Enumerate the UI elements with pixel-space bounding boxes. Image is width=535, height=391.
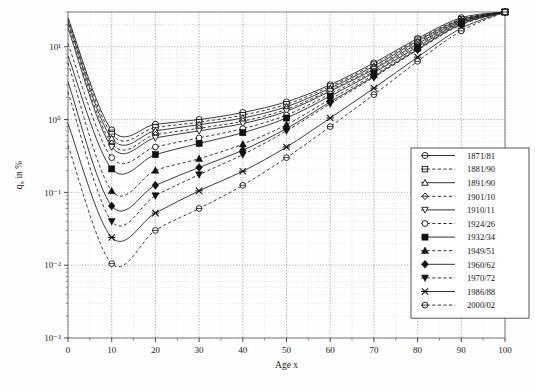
legend-label: 1910/11	[467, 205, 495, 215]
y-axis-title-text: qx in %	[14, 161, 26, 189]
x-tick-label: 70	[369, 345, 379, 355]
data-point-marker	[422, 221, 428, 227]
data-point-marker	[196, 135, 202, 141]
data-point-marker	[196, 172, 203, 179]
data-point-marker	[153, 144, 159, 150]
data-point-marker	[283, 115, 289, 121]
legend-label: 1871/81	[467, 151, 495, 161]
data-point-marker	[108, 187, 115, 194]
chart-canvas: 010203040506070809010010⁻³10⁻²10⁻¹10⁰10¹…	[0, 0, 535, 391]
y-tick-label: 10⁻²	[44, 260, 61, 270]
legend-label: 1891/90	[467, 178, 495, 188]
legend-label: 1960/62	[467, 260, 495, 270]
legend-label: 2000/02	[467, 300, 495, 310]
legend-label: 1949/51	[467, 246, 495, 256]
x-axis-title: Age x	[275, 360, 298, 370]
legend-label: 1901/10	[467, 192, 495, 202]
data-point-marker	[152, 167, 159, 174]
data-point-marker	[422, 234, 428, 240]
y-tick-label: 10⁻³	[44, 333, 61, 343]
chart-figure: 010203040506070809010010⁻³10⁻²10⁻¹10⁰10¹…	[0, 0, 535, 391]
legend-label: 1970/72	[467, 273, 495, 283]
x-tick-label: 100	[498, 345, 512, 355]
data-point-marker	[327, 101, 334, 108]
legend-label: 1986/88	[467, 287, 495, 297]
x-tick-label: 0	[66, 345, 71, 355]
x-tick-label: 60	[326, 345, 336, 355]
data-point-marker	[152, 193, 159, 200]
y-tick-label: 10⁰	[48, 115, 61, 125]
legend-label: 1932/34	[467, 232, 496, 242]
data-point-marker	[196, 140, 202, 146]
x-tick-label: 90	[457, 345, 467, 355]
data-point-marker	[109, 166, 115, 172]
x-tick-label: 20	[151, 345, 161, 355]
x-tick-label: 40	[238, 345, 248, 355]
data-point-marker	[196, 163, 203, 171]
data-point-marker	[109, 155, 115, 161]
y-tick-label: 10⁻¹	[44, 188, 61, 198]
x-tick-label: 80	[413, 345, 423, 355]
y-axis-title-tail: in %	[14, 161, 24, 181]
legend-label: 1881/90	[467, 164, 495, 174]
x-tick-label: 50	[282, 345, 292, 355]
x-tick-label: 10	[107, 345, 117, 355]
data-point-marker	[239, 152, 246, 159]
y-tick-label: 10¹	[49, 42, 61, 52]
legend-label: 1924/26	[467, 219, 496, 229]
data-point-marker	[240, 130, 246, 136]
data-point-marker	[283, 128, 290, 135]
x-tick-label: 30	[195, 345, 205, 355]
y-axis-title: qx in %	[14, 161, 26, 189]
data-point-marker	[152, 181, 159, 189]
data-point-marker	[152, 152, 158, 158]
legend-box[interactable]: 1871/811881/901891/901901/101910/111924/…	[411, 148, 529, 318]
